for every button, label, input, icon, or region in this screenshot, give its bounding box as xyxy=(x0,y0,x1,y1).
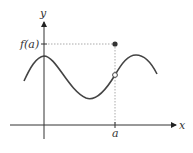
x-axis-label: x xyxy=(179,119,186,132)
function-graph: y x a f(a) xyxy=(0,0,193,153)
y-axis-label: y xyxy=(39,7,47,20)
filled-point-icon xyxy=(112,41,117,46)
tick-label-a: a xyxy=(112,127,119,140)
open-point-icon xyxy=(113,73,118,78)
tick-label-fa: f(a) xyxy=(19,38,39,51)
